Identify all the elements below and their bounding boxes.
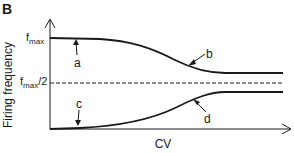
x-axis-label: CV bbox=[155, 137, 172, 151]
annotation-a-arrowhead-icon bbox=[73, 39, 79, 45]
annotation-b-arrowhead-icon bbox=[188, 59, 196, 66]
curve-a-b bbox=[50, 38, 283, 73]
annotation-b-label: b bbox=[206, 47, 213, 61]
fmax-tick-label: fmax bbox=[26, 31, 44, 46]
firing-frequency-diagram: B Firing frequency CV fmax fmax/2 a b c … bbox=[0, 0, 294, 153]
annotation-c-arrowhead-icon bbox=[75, 120, 81, 126]
annotation-c-label: c bbox=[76, 97, 82, 111]
panel-label: B bbox=[2, 1, 12, 17]
annotation-d-label: d bbox=[204, 112, 211, 126]
y-axis-label: Firing frequency bbox=[1, 42, 15, 128]
annotation-a-label: a bbox=[74, 56, 81, 70]
fmax-half-tick-label: fmax/2 bbox=[20, 75, 47, 90]
curve-c-d bbox=[50, 92, 283, 129]
annotation-d-arrowhead-icon bbox=[193, 99, 200, 105]
